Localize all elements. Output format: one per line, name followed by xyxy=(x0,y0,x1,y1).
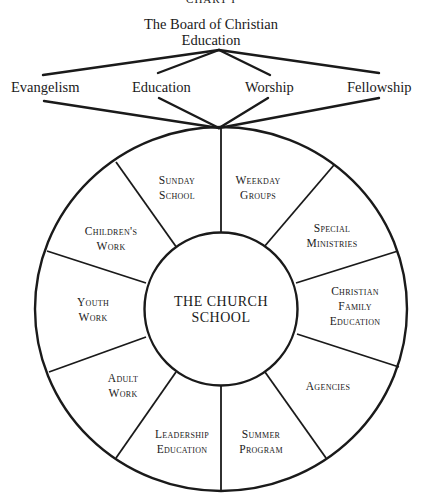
segment-line: Education xyxy=(155,442,209,457)
segment-line: Adult xyxy=(108,371,138,386)
segment-adult-work: Adult Work xyxy=(108,371,138,401)
organization-diagram xyxy=(0,0,422,504)
segment-line: Weekday xyxy=(235,173,280,188)
segment-sunday-school: Sunday School xyxy=(159,173,195,203)
board-connector-lines xyxy=(43,50,379,75)
board-title: The Board of Christian Education xyxy=(111,16,311,48)
segment-line: School xyxy=(159,188,195,203)
segment-line: Ministries xyxy=(306,236,357,251)
segment-leadership-education: Leadership Education xyxy=(155,427,209,457)
segment-line: Work xyxy=(77,310,109,325)
board-title-line2: Education xyxy=(111,32,311,48)
segment-line: Education xyxy=(330,314,381,329)
segment-agencies: Agencies xyxy=(306,379,350,394)
segment-christian-family-education: Christian Family Education xyxy=(330,284,381,329)
board-title-line1: The Board of Christian xyxy=(111,16,311,32)
segment-line: Program xyxy=(239,442,283,457)
function-fellowship: Fellowship xyxy=(347,79,411,96)
segment-line: Children's xyxy=(85,224,137,239)
segment-line: Sunday xyxy=(159,173,195,188)
function-evangelism: Evangelism xyxy=(11,79,79,96)
segment-line: Work xyxy=(108,386,138,401)
segment-line: Work xyxy=(85,239,137,254)
segment-line: Youth xyxy=(77,295,109,310)
segment-line: Summer xyxy=(239,427,283,442)
function-education: Education xyxy=(132,79,191,96)
center-line1: THE CHURCH xyxy=(174,294,268,310)
chart-number: CHART I xyxy=(0,0,422,5)
function-connector-lines xyxy=(44,98,379,128)
segment-weekday-groups: Weekday Groups xyxy=(235,173,280,203)
segment-youth-work: Youth Work xyxy=(77,295,109,325)
center-label-church-school: THE CHURCH SCHOOL xyxy=(174,294,268,326)
segment-line: Family xyxy=(330,299,381,314)
segment-childrens-work: Children's Work xyxy=(85,224,137,254)
function-worship: Worship xyxy=(245,79,294,96)
center-line2: SCHOOL xyxy=(174,310,268,326)
segment-line: Christian xyxy=(330,284,381,299)
segment-line: Special xyxy=(306,221,357,236)
segment-line: Agencies xyxy=(306,379,350,394)
segment-summer-program: Summer Program xyxy=(239,427,283,457)
segment-line: Groups xyxy=(235,188,280,203)
segment-special-ministries: Special Ministries xyxy=(306,221,357,251)
segment-line: Leadership xyxy=(155,427,209,442)
